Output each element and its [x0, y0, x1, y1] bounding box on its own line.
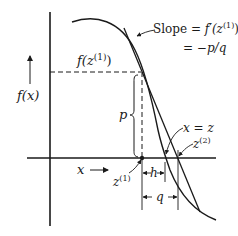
- z2-leader-line: [179, 144, 193, 156]
- slope-label: Slope = f′(z(1)): [153, 21, 238, 36]
- slope-close: ): [234, 22, 238, 36]
- tangent-line: [124, 28, 200, 212]
- f-z1-superscript: (1): [94, 52, 107, 62]
- f-z1-text: f(z: [76, 53, 94, 68]
- f-z1-label: f(z(1)): [76, 52, 112, 68]
- z2-label: z(2): [192, 136, 211, 151]
- y-axis-label: f(x): [16, 88, 39, 103]
- slope-line2-label: = −p/q: [183, 41, 227, 55]
- slope-prefix: Slope =: [153, 22, 205, 36]
- x-axis-label: x: [77, 162, 85, 177]
- h-label: h: [150, 166, 158, 180]
- z1-superscript: (1): [119, 174, 130, 183]
- x-eq-z-label: x = z: [183, 121, 214, 135]
- z1-label: z(1): [112, 174, 131, 189]
- slope-superscript: (1): [223, 21, 234, 30]
- slope-derivative: f′(z: [204, 22, 224, 36]
- f-z1-close: ): [106, 53, 111, 68]
- p-label: p: [119, 107, 128, 122]
- p-brace: [130, 75, 138, 157]
- z2-superscript: (2): [199, 136, 210, 145]
- q-label: q: [156, 190, 164, 204]
- z1-leader-line: [129, 160, 141, 173]
- diagram-canvas: f(x) f(z(1)) Slope = f′(z(1)) = −p/q p x…: [0, 0, 238, 236]
